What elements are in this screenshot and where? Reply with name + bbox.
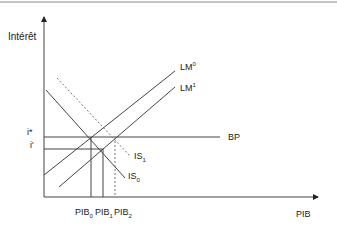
pib2-label-sub: 2 <box>129 213 132 219</box>
lm1-label-sup: 1 <box>193 82 196 88</box>
pib0-label: PIB0 <box>75 208 93 219</box>
pib2-label-base: PIB <box>114 207 129 217</box>
lm0-label-base: LM <box>180 62 193 72</box>
lm1-label: LM1 <box>180 82 196 93</box>
is-lm-bp-diagram <box>0 0 337 227</box>
pib0-label-base: PIB <box>75 207 90 217</box>
y-axis-label: Intérêt <box>8 32 36 42</box>
is1-curve <box>57 78 130 156</box>
lm1-label-base: LM <box>180 83 193 93</box>
lm0-curve <box>44 71 175 175</box>
is0-label-base: IS <box>128 171 137 181</box>
pib1-label: PIB1 <box>95 208 113 219</box>
i-prime-label: i' <box>30 141 34 150</box>
is0-label: IS0 <box>128 172 140 183</box>
pib1-label-base: PIB <box>95 207 110 217</box>
is1-label-base: IS <box>134 151 143 161</box>
lm0-label-sup: 0 <box>193 61 196 67</box>
i-star-label: i* <box>27 128 33 137</box>
is1-label: IS1 <box>134 152 146 163</box>
x-axis-label: PIB <box>296 210 311 219</box>
lm0-label: LM0 <box>180 61 196 72</box>
pib1-label-sub: 1 <box>110 213 113 219</box>
bp-label: BP <box>228 133 240 142</box>
is1-label-sub: 1 <box>143 157 146 163</box>
pib2-label: PIB2 <box>114 208 132 219</box>
is0-label-sub: 0 <box>137 177 140 183</box>
pib0-label-sub: 0 <box>90 213 93 219</box>
